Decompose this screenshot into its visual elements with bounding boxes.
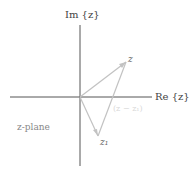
plane-label: z-plane bbox=[17, 123, 50, 132]
imaginary-axis-label: Im {z} bbox=[65, 10, 100, 20]
difference-label: (z − z₁) bbox=[113, 105, 143, 113]
point-z1-label: z₁ bbox=[100, 138, 108, 147]
point-z-label: z bbox=[128, 55, 133, 64]
arrowhead-z1 bbox=[93, 129, 98, 136]
real-axis-label: Re {z} bbox=[155, 92, 190, 102]
z-plane-diagram bbox=[0, 0, 194, 172]
